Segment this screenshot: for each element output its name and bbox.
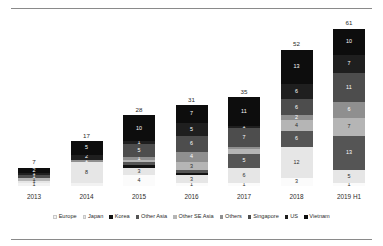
legend-swatch-icon — [136, 215, 140, 219]
bar-column-2018[interactable]: 1366246123522018 — [274, 14, 320, 200]
bar-segment-vietnam[interactable]: 7 — [176, 105, 208, 123]
bar-segment-vietnam[interactable]: 10 — [123, 115, 155, 141]
bar-segment-other-asia[interactable]: 13 — [333, 136, 365, 170]
bar-total-label: 17 — [64, 133, 110, 139]
segment-value-label: 8 — [85, 170, 88, 175]
bar-segment-europe[interactable]: 3 — [281, 178, 313, 186]
legend-swatch-icon — [109, 215, 113, 219]
bar-segment-singapore[interactable]: 6 — [176, 136, 208, 152]
legend-label: Europe — [59, 214, 77, 220]
segment-value-label: 4 — [190, 154, 193, 159]
bar-segment-others[interactable]: 4 — [176, 152, 208, 162]
bar-segment-other-asia[interactable]: 6 — [281, 131, 313, 147]
bar-stack[interactable]: 10711671351 — [333, 29, 365, 186]
segment-value-label: 3 — [137, 169, 140, 174]
bar-segment-europe[interactable]: 1 — [18, 183, 50, 186]
legend-item-korea[interactable]: Korea — [109, 214, 129, 220]
segment-value-label: 10 — [136, 126, 142, 131]
bottom-divider-rule — [11, 239, 372, 240]
x-axis-tick-label: 2017 — [221, 194, 267, 200]
bar-stack[interactable]: 211111 — [18, 168, 50, 186]
segment-value-label: 7 — [347, 124, 350, 129]
bar-column-2015[interactable]: 1015134282015 — [116, 14, 162, 200]
bar-segment-vietnam[interactable]: 10 — [333, 29, 365, 55]
bar-segment-us[interactable]: 7 — [333, 55, 365, 73]
segment-value-label: 6 — [242, 173, 245, 178]
segment-value-label: 3 — [190, 177, 193, 182]
bar-segment-singapore[interactable]: 11 — [333, 73, 365, 102]
legend-item-europe[interactable]: Europe — [53, 214, 76, 220]
segment-value-label: 11 — [346, 85, 352, 90]
segment-value-label: 3 — [295, 179, 298, 184]
bar-segment-singapore[interactable]: 6 — [281, 99, 313, 115]
segment-value-label: 4 — [295, 123, 298, 128]
bar-segment-europe[interactable] — [71, 183, 103, 186]
segment-value-label: 1 — [347, 183, 350, 186]
bar-stack[interactable]: 7564331 — [176, 105, 208, 186]
legend-item-japan[interactable]: Japan — [83, 214, 104, 220]
segment-value-label: 7 — [242, 135, 245, 140]
bar-segment-other-se-asia[interactable]: 4 — [281, 120, 313, 130]
bar-total-label: 35 — [221, 89, 267, 95]
bar-segment-europe[interactable]: 1 — [176, 183, 208, 186]
legend-label: Korea — [115, 214, 130, 220]
segment-value-label: 4 — [137, 178, 140, 183]
bar-column-2014[interactable]: 5218172014 — [64, 14, 110, 200]
bar-stack[interactable]: 1015134 — [123, 115, 155, 186]
segment-value-label: 10 — [346, 39, 352, 44]
bar-segment-japan[interactable]: 6 — [228, 168, 260, 184]
bar-segment-singapore[interactable]: 7 — [228, 128, 260, 146]
legend-swatch-icon — [83, 215, 87, 219]
bar-column-2017[interactable]: 1117561352017 — [221, 14, 267, 200]
bar-column-2019-h1[interactable]: 10711671351612019 H1 — [326, 14, 372, 200]
bar-segment-japan[interactable]: 3 — [123, 168, 155, 176]
legend-swatch-icon — [248, 215, 252, 219]
bar-segment-us[interactable]: 5 — [176, 123, 208, 136]
legend-label: Vietnam — [309, 214, 329, 220]
legend-swatch-icon — [304, 215, 308, 219]
bar-segment-europe[interactable]: 4 — [123, 175, 155, 185]
legend-item-vietnam[interactable]: Vietnam — [304, 214, 330, 220]
bar-segment-us[interactable]: 6 — [281, 84, 313, 100]
x-axis-tick-label: 2015 — [116, 194, 162, 200]
bar-segment-vietnam[interactable]: 5 — [71, 141, 103, 154]
bar-stack[interactable]: 5218 — [71, 141, 103, 186]
bar-segment-europe[interactable]: 1 — [333, 183, 365, 186]
bar-column-2016[interactable]: 7564331312016 — [169, 14, 215, 200]
legend-item-us[interactable]: US — [285, 214, 298, 220]
legend-item-others[interactable]: Others — [220, 214, 242, 220]
legend-item-other-se-asia[interactable]: Other SE Asia — [173, 214, 214, 220]
legend-item-singapore[interactable]: Singapore — [248, 214, 279, 220]
bar-segment-other-se-asia[interactable]: 3 — [176, 162, 208, 170]
bar-segment-singapore[interactable]: 5 — [123, 144, 155, 157]
bar-total-label: 52 — [274, 41, 320, 47]
legend-label: Others — [225, 214, 242, 220]
bar-segment-vietnam[interactable]: 11 — [228, 97, 260, 126]
bar-stack[interactable]: 1117561 — [228, 97, 260, 186]
bar-segment-others[interactable]: 6 — [333, 102, 365, 118]
bar-segment-japan[interactable]: 12 — [281, 147, 313, 178]
legend-item-other-asia[interactable]: Other Asia — [136, 214, 168, 220]
legend-swatch-icon — [53, 215, 57, 219]
bar-segment-japan[interactable]: 8 — [71, 162, 103, 183]
bar-segment-vietnam[interactable]: 13 — [281, 50, 313, 84]
segment-value-label: 7 — [190, 111, 193, 116]
segment-value-label: 7 — [347, 61, 350, 66]
chart-legend: EuropeJapanKoreaOther AsiaOther SE AsiaO… — [11, 214, 372, 220]
bar-segment-europe[interactable]: 1 — [228, 183, 260, 186]
x-axis-tick-label: 2014 — [64, 194, 110, 200]
segment-value-label: 1 — [32, 183, 35, 186]
segment-value-label: 5 — [190, 127, 193, 132]
bar-segment-other-asia[interactable]: 5 — [228, 154, 260, 167]
segment-value-label: 12 — [293, 160, 299, 165]
bar-segment-japan[interactable]: 3 — [176, 175, 208, 183]
bar-stack[interactable]: 1366246123 — [281, 50, 313, 186]
bar-segment-japan[interactable]: 5 — [333, 170, 365, 183]
bar-column-2013[interactable]: 21111172013 — [11, 14, 57, 200]
x-axis-tick-label: 2019 H1 — [326, 194, 372, 200]
segment-value-label: 6 — [347, 107, 350, 112]
stacked-bar-chart-figure: 2111117201352181720141015134282015756433… — [0, 0, 383, 246]
segment-value-label: 13 — [346, 150, 352, 155]
bar-total-label: 61 — [326, 20, 372, 26]
bar-segment-other-se-asia[interactable]: 7 — [333, 118, 365, 136]
